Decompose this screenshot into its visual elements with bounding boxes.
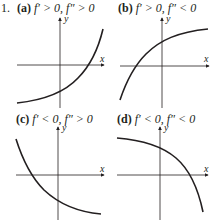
panel-a-x-label: x xyxy=(99,53,105,64)
panel-a-graph: y x xyxy=(17,13,105,108)
panel-d-y-label: y xyxy=(163,122,169,133)
panel-c-y-label: y xyxy=(61,122,67,133)
panel-d-graph: y x xyxy=(117,122,209,220)
panel-b-graph: y x xyxy=(120,13,209,108)
panel-c-graph: y x xyxy=(16,122,105,220)
panel-b-x-label: x xyxy=(203,53,209,64)
panel-c-x-label: x xyxy=(99,163,105,174)
panel-b-curve xyxy=(120,29,208,100)
panel-d-x-label: x xyxy=(203,163,209,174)
panel-a-y-label: y xyxy=(63,13,69,24)
panel-c-curve xyxy=(16,139,101,214)
graphs-canvas: y x y x y x y x xyxy=(0,0,210,222)
panel-b-y-label: y xyxy=(165,13,171,24)
